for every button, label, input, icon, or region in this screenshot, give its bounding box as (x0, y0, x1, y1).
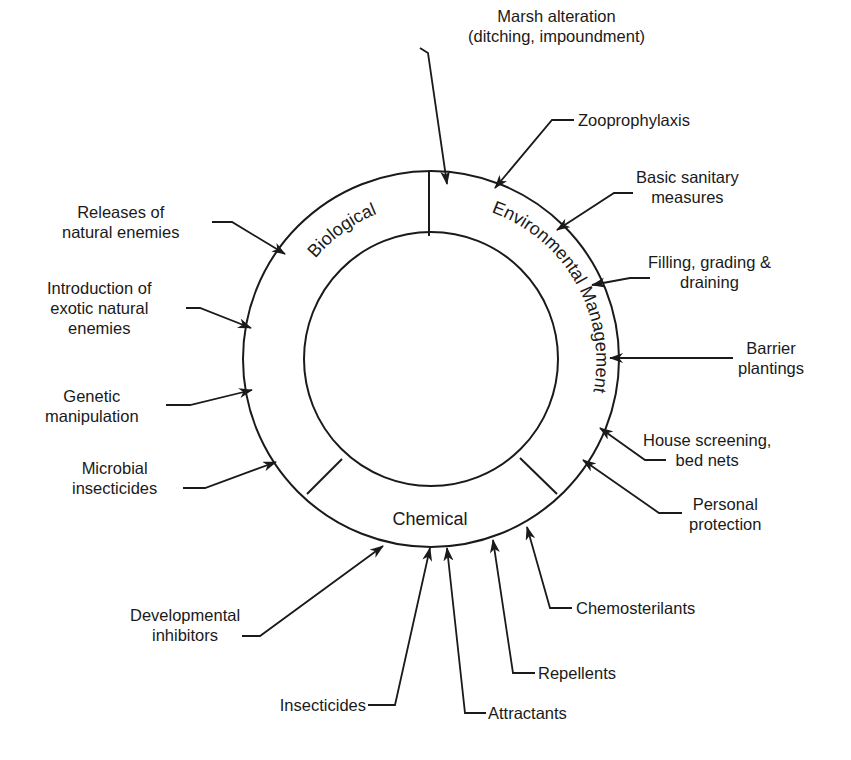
arrow-microbial (183, 462, 276, 488)
arrow-introduction (186, 308, 251, 328)
divider-env-chem (520, 458, 557, 494)
label-microbial-insecticides: Microbial insecticides (72, 458, 157, 498)
label-repellents: Repellents (538, 663, 616, 683)
label-marsh-alteration: Marsh alteration (ditching, impoundment) (468, 6, 645, 46)
arrow-genetic (166, 390, 252, 405)
diagram-canvas: Biological Environmental Management Chem… (0, 0, 851, 760)
vector-control-diagram: Biological Environmental Management Chem… (0, 0, 851, 760)
label-basic-sanitary: Basic sanitary measures (636, 167, 739, 207)
segment-environmental: Environmental Management (490, 197, 613, 395)
label-barrier-plantings: Barrier plantings (738, 338, 804, 378)
divider-bio-chem (307, 459, 342, 494)
label-releases-natural-enemies: Releases of natural enemies (62, 202, 179, 242)
inner-ring (304, 232, 558, 486)
arrow-releases (212, 222, 285, 254)
label-house-screening: House screening, bed nets (643, 430, 771, 470)
label-developmental-inhibitors: Developmental inhibitors (130, 605, 240, 645)
label-personal-protection: Personal protection (689, 494, 761, 534)
arrow-developmental (242, 546, 383, 636)
arrow-marsh (420, 48, 447, 184)
arrow-chemoster (527, 527, 572, 608)
label-chemosterilants: Chemosterilants (576, 598, 695, 618)
label-genetic-manipulation: Genetic manipulation (45, 386, 139, 426)
arrow-insecticides (368, 548, 430, 705)
label-filling-grading: Filling, grading & draining (648, 252, 771, 292)
label-zooprophylaxis: Zooprophylaxis (578, 110, 690, 130)
label-insecticides: Insecticides (252, 695, 366, 715)
arrow-attractants (447, 548, 486, 713)
label-introduction-exotic: Introduction of exotic natural enemies (47, 278, 152, 338)
label-attractants: Attractants (488, 703, 567, 723)
segment-chemical: Chemical (392, 509, 467, 529)
arrow-zoo (495, 120, 574, 188)
segment-biological: Biological (303, 199, 378, 261)
arrow-sanitary (557, 193, 633, 230)
arrow-repellents (493, 540, 535, 673)
